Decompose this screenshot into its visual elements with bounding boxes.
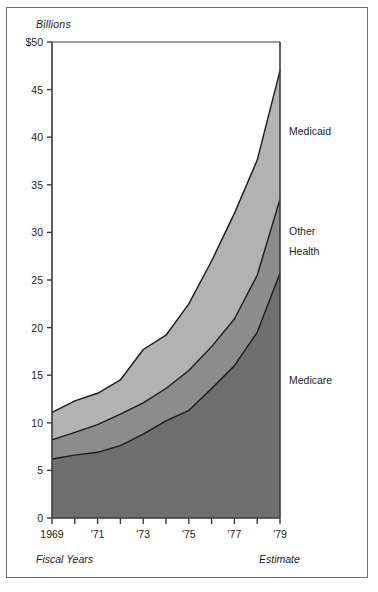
x-tick-label: '75 (182, 528, 196, 540)
y-tick-label: 35 (0, 179, 43, 191)
y-tick-label: 0 (0, 512, 43, 524)
y-tick-label: 30 (0, 226, 43, 238)
plot-wrapper (0, 0, 378, 592)
x-tick-label: '79 (273, 528, 287, 540)
x-tick-label: '77 (228, 528, 242, 540)
y-tick-label: 15 (0, 369, 43, 381)
series-label-health: Health (289, 245, 319, 259)
footer-right-note: Estimate (259, 553, 300, 565)
y-tick-label: 40 (0, 131, 43, 143)
chart-figure: Billions $50454035302520151050 1969'71'7… (0, 0, 378, 592)
y-tick-label: 20 (0, 322, 43, 334)
area-bands (52, 71, 280, 518)
stacked-area-chart (0, 0, 378, 592)
y-axis-unit-label: Billions (36, 18, 71, 30)
x-tick-label: 1969 (40, 528, 63, 540)
y-tick-label: 10 (0, 417, 43, 429)
y-tick-label: 5 (0, 464, 43, 476)
series-label-medicaid: Medicaid (289, 125, 331, 139)
y-tick-label: 25 (0, 274, 43, 286)
footer-left-note: Fiscal Years (36, 553, 93, 565)
y-tick-label: $50 (0, 36, 43, 48)
y-tick-label: 45 (0, 84, 43, 96)
x-tick-label: '73 (136, 528, 150, 540)
series-label-medicare: Medicare (289, 374, 332, 388)
series-label-other: Other (289, 225, 315, 239)
x-tick-label: '71 (91, 528, 105, 540)
